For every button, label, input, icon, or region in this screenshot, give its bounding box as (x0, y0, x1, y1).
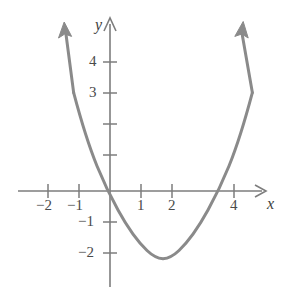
x-tick-label-1: 1 (137, 198, 145, 213)
parabola-plot (0, 0, 286, 301)
x-tick-label-neg2: −2 (36, 198, 52, 213)
x-tick-label-2: 2 (168, 198, 176, 213)
x-tick-label-neg1: −1 (67, 198, 83, 213)
graph-figure: −2 −1 1 2 4 4 3 −1 −2 y x (0, 0, 286, 301)
x-tick-label-4: 4 (230, 198, 238, 213)
x-axis-label: x (267, 196, 274, 212)
y-axis (104, 18, 116, 287)
y-tick-label-3: 3 (89, 85, 97, 100)
y-tick-label-4: 4 (89, 54, 97, 69)
y-axis-label: y (95, 17, 102, 33)
x-axis (18, 185, 266, 197)
y-tick-label-neg1: −1 (78, 214, 94, 229)
y-tick-label-neg2: −2 (78, 245, 94, 260)
